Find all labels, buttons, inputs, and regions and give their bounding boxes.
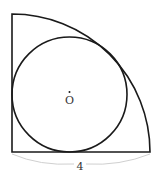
radius-length-label: 4 [77,160,84,173]
center-label: O [65,94,74,107]
quarter-circle-sector [12,14,150,152]
geometry-diagram: O 4 [0,0,163,178]
center-point [69,91,71,93]
